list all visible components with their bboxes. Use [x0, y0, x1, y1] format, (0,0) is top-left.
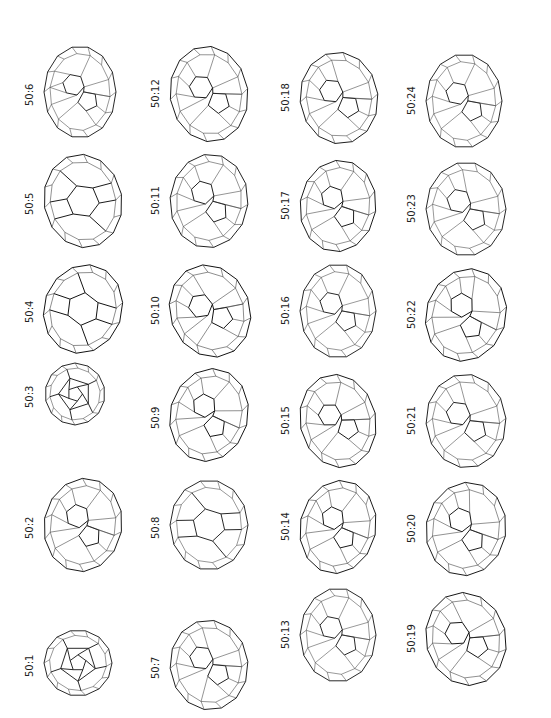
isomer-label: 50:5 [24, 193, 35, 215]
fullerene-wireframe-icon [168, 262, 252, 360]
isomer-label: 50:22 [406, 300, 417, 329]
isomer-label: 50:14 [280, 512, 291, 541]
fullerene-wireframe-icon [42, 152, 124, 250]
isomer-label: 50:8 [150, 517, 161, 539]
fullerene-wireframe-icon [424, 372, 508, 470]
isomer-label: 50:4 [24, 301, 35, 323]
isomer-label: 50:15 [280, 406, 291, 435]
isomer-label: 50:6 [24, 84, 35, 106]
fullerene-wireframe-icon [424, 52, 504, 150]
isomer-label: 50:23 [406, 194, 417, 223]
isomer-label: 50:24 [406, 86, 417, 115]
isomer-label: 50:16 [280, 296, 291, 325]
fullerene-wireframe-icon [168, 618, 250, 712]
isomer-label: 50:18 [280, 83, 291, 112]
isomer-label: 50:21 [406, 406, 417, 435]
fullerene-wireframe-icon [42, 362, 108, 426]
isomer-label: 50:2 [24, 517, 35, 539]
fullerene-wireframe-icon [168, 478, 250, 572]
isomer-label: 50:12 [150, 79, 161, 108]
isomer-label: 50:19 [406, 624, 417, 653]
isomer-label: 50:11 [150, 186, 161, 215]
isomer-label: 50:9 [150, 407, 161, 429]
fullerene-wireframe-icon [298, 478, 378, 576]
fullerene-wireframe-icon [168, 44, 250, 144]
fullerene-wireframe-icon [298, 158, 378, 254]
fullerene-isomer-figure: 50:150:250:350:450:550:650:750:850:950:1… [0, 0, 551, 718]
isomer-label: 50:1 [24, 655, 35, 677]
fullerene-wireframe-icon [298, 50, 380, 146]
fullerene-wireframe-icon [424, 266, 508, 364]
fullerene-wireframe-icon [42, 476, 124, 574]
fullerene-wireframe-icon [168, 366, 250, 464]
fullerene-wireframe-icon [298, 262, 378, 360]
fullerene-wireframe-icon [424, 590, 508, 688]
fullerene-wireframe-icon [424, 480, 508, 578]
isomer-label: 50:7 [150, 657, 161, 679]
fullerene-wireframe-icon [298, 372, 378, 470]
fullerene-wireframe-icon [42, 628, 114, 698]
isomer-label: 50:20 [406, 514, 417, 543]
isomer-label: 50:10 [150, 296, 161, 325]
isomer-label: 50:3 [24, 386, 35, 408]
isomer-label: 50:17 [280, 191, 291, 220]
fullerene-wireframe-icon [168, 152, 250, 250]
fullerene-wireframe-icon [424, 160, 508, 258]
fullerene-wireframe-icon [42, 44, 118, 140]
isomer-label: 50:13 [280, 620, 291, 649]
fullerene-wireframe-icon [298, 586, 378, 684]
fullerene-wireframe-icon [42, 262, 124, 356]
